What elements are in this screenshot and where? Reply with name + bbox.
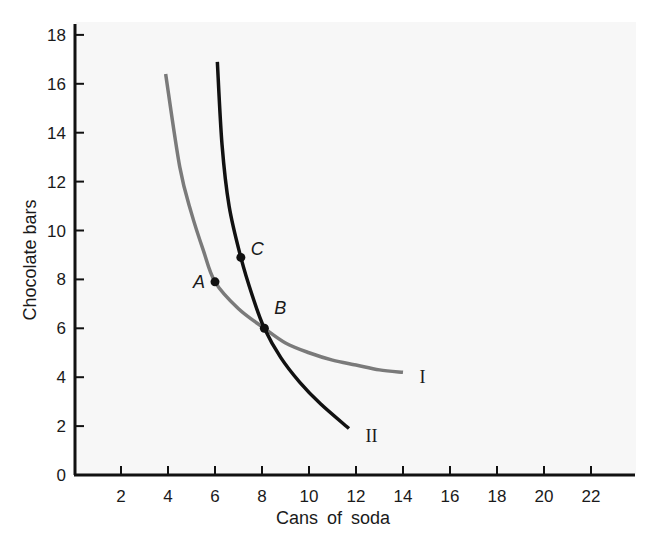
point-label-b: B — [274, 298, 286, 318]
y-tick-label: 8 — [57, 270, 66, 289]
y-tick-label: 4 — [57, 368, 66, 387]
point-b — [260, 324, 269, 333]
x-tick-label: 16 — [441, 487, 460, 506]
x-tick-label: 6 — [210, 487, 219, 506]
curve-label-ii: II — [365, 426, 377, 446]
y-tick-label: 14 — [47, 124, 66, 143]
x-tick-label: 12 — [347, 487, 366, 506]
curve-label-i: I — [419, 367, 425, 387]
y-axis-title: Chocolate bars — [20, 199, 40, 320]
x-tick-label: 18 — [488, 487, 507, 506]
y-tick-label: 18 — [47, 26, 66, 45]
x-tick-label: 8 — [257, 487, 266, 506]
y-tick-label: 16 — [47, 75, 66, 94]
y-tick-label: 0 — [57, 466, 66, 485]
plot-background — [76, 22, 636, 474]
y-tick-label: 12 — [47, 173, 66, 192]
point-c — [236, 253, 245, 262]
y-tick-label: 10 — [47, 222, 66, 241]
x-tick-label: 2 — [116, 487, 125, 506]
x-tick-label: 10 — [300, 487, 319, 506]
x-tick-label: 14 — [394, 487, 413, 506]
x-tick-label: 22 — [582, 487, 601, 506]
y-tick-label: 2 — [57, 417, 66, 436]
x-tick-label: 20 — [535, 487, 554, 506]
x-tick-label: 4 — [163, 487, 172, 506]
y-tick-label: 6 — [57, 319, 66, 338]
point-a — [211, 277, 220, 286]
point-label-c: C — [251, 239, 265, 259]
x-axis-title: Cans of soda — [276, 508, 391, 528]
indifference-curve-chart: 246810121416182022 024681012141618 ABC I… — [0, 0, 655, 538]
point-label-a: A — [192, 272, 205, 292]
